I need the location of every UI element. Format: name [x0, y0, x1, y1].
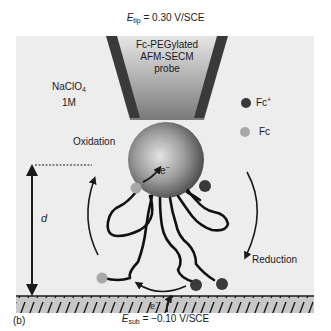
substrate-potential-value: = −0.10 V/SCE — [140, 313, 210, 324]
probe-label-line1: Fc-PEGylated — [117, 39, 217, 51]
legend-fc-plus: Fc+ — [256, 96, 271, 109]
tip-potential-subscript: tip — [133, 17, 140, 24]
electron-label-tip: e− — [160, 164, 170, 177]
tip-potential-value: = 0.30 V/SCE — [141, 12, 205, 23]
electrolyte-concentration: 1M — [44, 96, 94, 109]
electron-tip-charge: − — [166, 164, 170, 171]
substrate-potential-label: Esub = −0.10 V/SCE — [0, 313, 331, 326]
electrolyte-formula-subscript: 4 — [82, 86, 86, 93]
legend-fc-label: Fc — [259, 126, 270, 137]
legend-fc-plus-dot — [241, 98, 251, 108]
legend-fc-plus-charge: + — [267, 96, 271, 103]
electrolyte-label: NaClO4 1M — [44, 80, 94, 109]
reduction-label: Reduction — [252, 254, 297, 266]
electron-label-sub: e− — [150, 299, 159, 311]
distance-label: d — [41, 212, 47, 225]
electron-sub-charge: − — [155, 299, 159, 306]
substrate-potential-subscript: sub — [128, 318, 139, 325]
legend-fc-plus-label: Fc — [256, 97, 267, 108]
probe-label-line2: AFM-SECM — [117, 51, 217, 63]
electrolyte-formula: NaClO — [52, 81, 82, 92]
legend-fc: Fc — [259, 126, 270, 138]
legend-fc-dot — [240, 127, 250, 137]
oxidation-label: Oxidation — [73, 136, 115, 148]
probe-label-line3: probe — [117, 63, 217, 75]
tip-potential-label: Etip = 0.30 V/SCE — [0, 12, 331, 25]
substrate-electrode — [16, 296, 314, 313]
probe-label: Fc-PEGylated AFM-SECM probe — [117, 39, 217, 75]
